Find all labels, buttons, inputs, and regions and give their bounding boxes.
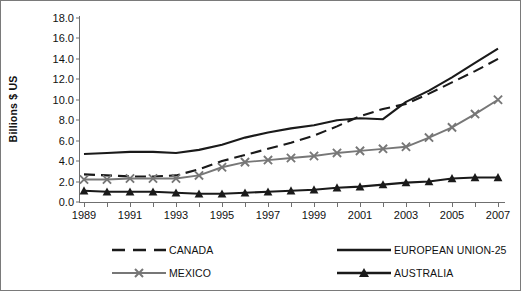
legend-item-canada[interactable]: CANADA bbox=[110, 243, 213, 257]
x-tick-mark bbox=[314, 202, 315, 207]
x-tick-mark bbox=[406, 202, 407, 207]
x-tick-label: 1999 bbox=[302, 209, 326, 221]
x-tick-label: 2007 bbox=[486, 209, 510, 221]
x-tick-mark bbox=[107, 202, 108, 207]
x-tick-label: 1995 bbox=[210, 209, 234, 221]
x-tick-label: 2005 bbox=[440, 209, 464, 221]
legend-label: CANADA bbox=[169, 244, 213, 256]
cross-marker bbox=[425, 134, 433, 142]
legend-label: AUSTRALIA bbox=[394, 267, 453, 279]
line-series-svg bbox=[80, 18, 504, 202]
x-tick-mark bbox=[84, 202, 85, 207]
series-layer bbox=[80, 18, 504, 202]
x-tick-label: 2003 bbox=[394, 209, 418, 221]
x-tick-mark bbox=[176, 202, 177, 207]
x-tick-mark bbox=[429, 202, 430, 207]
x-tick-label: 1993 bbox=[164, 209, 188, 221]
dashed-line-key bbox=[110, 243, 168, 257]
series-line bbox=[84, 49, 498, 154]
x-tick-label: 1997 bbox=[256, 209, 280, 221]
x-tick-mark bbox=[268, 202, 269, 207]
legend-item-australia[interactable]: AUSTRALIA bbox=[335, 266, 453, 280]
plot-area: 0.02.04.06.08.010.012.014.016.018.0 1989… bbox=[80, 18, 504, 202]
series-line bbox=[84, 100, 498, 180]
x-tick-mark bbox=[245, 202, 246, 207]
x-tick-mark bbox=[452, 202, 453, 207]
series-mexico bbox=[80, 96, 502, 184]
x-tick-mark bbox=[291, 202, 292, 207]
x-tick-mark bbox=[337, 202, 338, 207]
legend-label: EUROPEAN UNION-25 bbox=[394, 244, 507, 256]
cross-marker-key bbox=[110, 266, 168, 280]
x-tick-label: 1991 bbox=[118, 209, 142, 221]
legend-label: MEXICO bbox=[169, 267, 211, 279]
x-tick-mark bbox=[360, 202, 361, 207]
y-axis-title: Billions $ US bbox=[3, 1, 23, 216]
cross-marker bbox=[471, 110, 479, 118]
legend-item-european-union-25[interactable]: EUROPEAN UNION-25 bbox=[335, 243, 507, 257]
solid-line-key bbox=[335, 243, 393, 257]
legend-item-mexico[interactable]: MEXICO bbox=[110, 266, 211, 280]
x-tick-label: 1989 bbox=[72, 209, 96, 221]
x-tick-label: 2001 bbox=[348, 209, 372, 221]
x-tick-mark bbox=[130, 202, 131, 207]
x-tick-mark bbox=[222, 202, 223, 207]
series-european-union-25 bbox=[84, 49, 498, 154]
x-tick-mark bbox=[475, 202, 476, 207]
triangle-marker-key bbox=[335, 266, 393, 280]
x-tick-mark bbox=[383, 202, 384, 207]
x-tick-mark bbox=[153, 202, 154, 207]
chart-figure: Billions $ US 0.02.04.06.08.010.012.014.… bbox=[0, 0, 521, 291]
x-tick-mark bbox=[498, 202, 499, 207]
cross-marker bbox=[448, 123, 456, 131]
chart-legend: CANADAEUROPEAN UNION-25MEXICOAUSTRALIA bbox=[80, 241, 504, 287]
cross-marker bbox=[494, 96, 502, 104]
x-tick-mark bbox=[199, 202, 200, 207]
x-axis-line bbox=[79, 202, 505, 203]
